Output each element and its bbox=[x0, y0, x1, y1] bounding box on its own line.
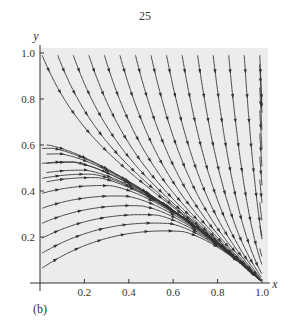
y-tick-label: 0.8 bbox=[21, 93, 35, 105]
page-number: 25 bbox=[139, 9, 151, 23]
y-tick-label: 1.0 bbox=[21, 47, 35, 59]
streamplot-chart: 0.20.40.60.81.00.20.40.60.81.0 25 (b) y … bbox=[0, 0, 295, 325]
x-tick-label: 0.6 bbox=[166, 286, 180, 298]
panel-label: (b) bbox=[33, 302, 47, 316]
y-tick-label: 0.4 bbox=[21, 185, 35, 197]
x-tick-label: 0.8 bbox=[211, 286, 225, 298]
plot-background bbox=[40, 48, 268, 283]
y-tick-label: 0.2 bbox=[21, 231, 35, 243]
y-tick-label: 0.6 bbox=[21, 139, 35, 151]
x-axis-label: x bbox=[271, 277, 278, 291]
x-tick-label: 0.2 bbox=[78, 286, 92, 298]
y-axis-label: y bbox=[32, 29, 39, 43]
figure: 0.20.40.60.81.00.20.40.60.81.0 25 (b) y … bbox=[0, 0, 295, 325]
x-tick-label: 1.0 bbox=[255, 286, 269, 298]
x-tick-label: 0.4 bbox=[122, 286, 136, 298]
